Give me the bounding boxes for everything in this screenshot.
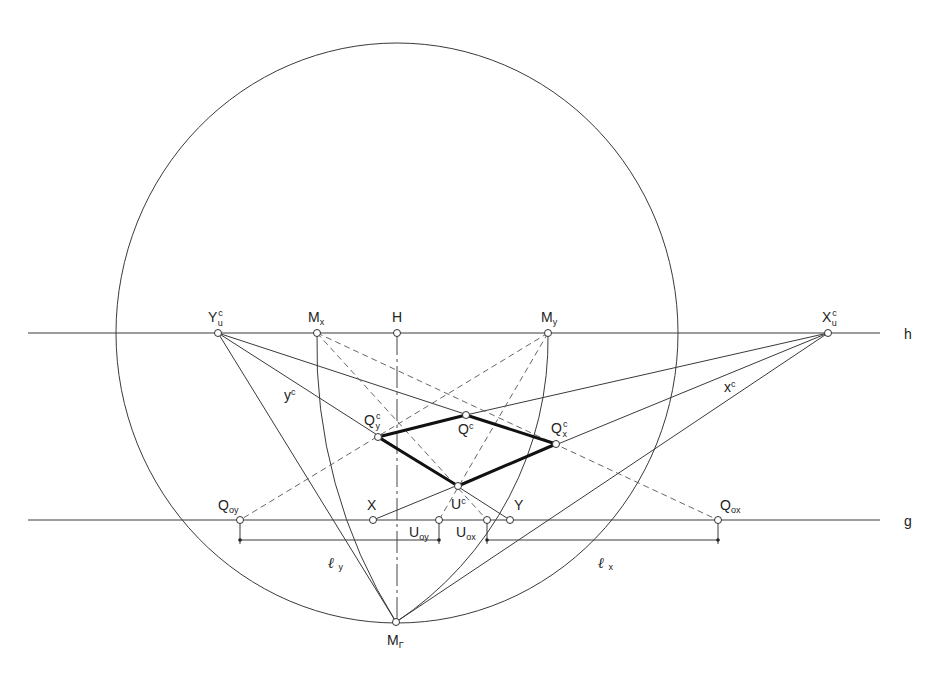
- label-h: h: [904, 326, 912, 342]
- label-qx: Qcx: [551, 419, 568, 439]
- point-xu: [825, 330, 832, 337]
- label-yu: Ycu: [208, 308, 223, 328]
- label-h-point: H: [392, 309, 402, 325]
- perspective-diagram: h g Ycu Mx H My Xcu yc xc Qcy Qc Qcx Uc …: [0, 0, 946, 699]
- label-xu: Xcu: [822, 308, 837, 328]
- label-uoy: Uoy: [409, 524, 429, 542]
- point-x: [370, 517, 377, 524]
- label-uox: Uox: [456, 524, 476, 542]
- arc-mx-mg: [317, 333, 396, 622]
- dash-my-uoy: [439, 333, 548, 520]
- point-qy: [375, 434, 382, 441]
- point-u: [455, 483, 462, 490]
- point-q: [463, 412, 470, 419]
- label-ly: ℓy: [328, 555, 343, 572]
- label-lx: ℓx: [598, 555, 613, 572]
- label-my: My: [541, 309, 558, 327]
- label-y: Y: [514, 497, 524, 513]
- line-xu-mg: [396, 333, 828, 622]
- label-g: g: [904, 513, 912, 529]
- dimension-lx: [485, 520, 720, 544]
- point-y: [507, 517, 514, 524]
- point-qx: [553, 441, 560, 448]
- label-x: X: [367, 497, 377, 513]
- point-uoy: [436, 517, 443, 524]
- arc-my-mg: [396, 333, 548, 622]
- point-yu: [215, 330, 222, 337]
- point-qoy: [237, 517, 244, 524]
- label-xc: xc: [724, 379, 736, 395]
- label-mg: MΓ: [387, 632, 404, 650]
- label-qox: Qox: [720, 497, 741, 515]
- point-uox: [484, 517, 491, 524]
- point-mg: [393, 619, 400, 626]
- point-my: [545, 330, 552, 337]
- line-xu-q: [466, 333, 828, 415]
- point-h: [394, 330, 401, 337]
- point-mx: [314, 330, 321, 337]
- label-mx: Mx: [308, 309, 325, 327]
- line-yu-mg: [218, 333, 396, 622]
- label-yc: yc: [284, 387, 296, 403]
- label-qoy: Qoy: [218, 497, 239, 515]
- point-qox: [715, 517, 722, 524]
- label-q: Qc: [458, 421, 474, 437]
- line-xc: [373, 333, 828, 520]
- label-u: Uc: [451, 496, 466, 512]
